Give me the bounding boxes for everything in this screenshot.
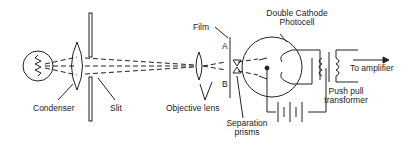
separation-prisms-label: Separation prisms xyxy=(222,119,272,137)
objective-lens xyxy=(196,52,202,80)
film-label: Film xyxy=(193,23,209,32)
separation-prism-lower xyxy=(233,67,241,73)
separation-prisms-label-line2: prisms xyxy=(222,128,272,137)
photocell-anode xyxy=(265,66,269,70)
point-a-label: A xyxy=(222,42,228,51)
battery xyxy=(278,102,302,122)
objective-lens-label: Objective lens xyxy=(166,104,219,113)
condenser-label: Condenser xyxy=(33,104,75,113)
optical-sound-reader-diagram xyxy=(0,0,419,149)
slit-label: Slit xyxy=(110,104,122,113)
photocell-label-line2: Photocell xyxy=(262,18,332,27)
light-rays xyxy=(45,57,258,75)
photocell-envelope xyxy=(242,37,302,97)
transformer-label: Push pull transformer xyxy=(318,87,374,105)
to-amplifier-label: To amplifier xyxy=(350,64,393,73)
photocell-label: Double Cathode Photocell xyxy=(262,9,332,27)
separation-prism-upper xyxy=(233,60,241,66)
slit-plate xyxy=(89,13,92,121)
transformer-label-line2: transformer xyxy=(318,96,374,105)
point-b-label: B xyxy=(222,80,228,89)
